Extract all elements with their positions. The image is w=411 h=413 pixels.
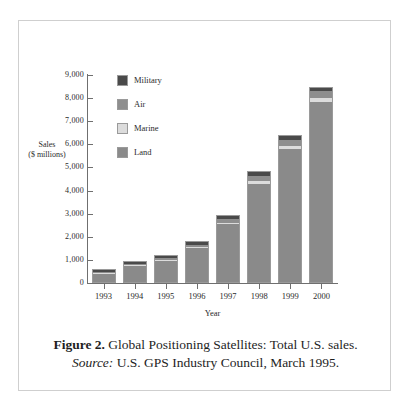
figure-number: Figure 2. xyxy=(53,337,105,352)
bar-segment-land xyxy=(93,274,115,282)
legend-label-land: Land xyxy=(134,148,151,157)
y-axis-tick-label: 7,000 xyxy=(40,117,84,125)
bar-segment-land xyxy=(310,102,332,282)
legend-swatch-military xyxy=(117,75,128,86)
legend-item-air: Air xyxy=(117,92,197,116)
y-axis-tick-label: 0 xyxy=(40,279,84,287)
legend-label-marine: Marine xyxy=(134,124,159,133)
bar-segment-land xyxy=(186,248,208,282)
legend-swatch-marine xyxy=(117,123,128,134)
y-axis-tick-label: 8,000 xyxy=(40,94,84,102)
figure-title-text: Global Positioning Satellites: Total U.S… xyxy=(105,337,358,352)
x-axis-tick xyxy=(104,284,105,289)
bar-1997 xyxy=(216,215,240,283)
y-axis-tick-label: 5,000 xyxy=(40,163,84,171)
x-axis-tick xyxy=(321,284,322,289)
x-axis-tick-label: 2000 xyxy=(301,292,341,301)
y-axis-tick-label: 9,000 xyxy=(40,71,84,79)
source-label: Source: xyxy=(72,355,113,370)
bar-segment-air xyxy=(310,91,332,98)
legend-item-marine: Marine xyxy=(117,116,197,140)
x-axis-tick xyxy=(135,284,136,289)
caption-line-figure: Figure 2. Global Positioning Satellites:… xyxy=(30,336,381,354)
y-axis-tick-label: 1,000 xyxy=(40,256,84,264)
y-axis-tick xyxy=(88,283,93,284)
x-axis-tick xyxy=(166,284,167,289)
y-axis-tick-label: 3,000 xyxy=(40,210,84,218)
x-axis-tick xyxy=(290,284,291,289)
legend-swatch-land xyxy=(117,147,128,158)
legend-label-air: Air xyxy=(134,100,145,109)
y-axis-tick-label: 4,000 xyxy=(40,187,84,195)
bar-1994 xyxy=(123,261,147,283)
x-axis-title: Year xyxy=(88,308,337,318)
caption-line-source: Source: U.S. GPS Industry Council, March… xyxy=(30,354,381,372)
bar-segment-land xyxy=(155,261,177,282)
bar-1993 xyxy=(92,269,116,283)
bar-segment-land xyxy=(124,266,146,282)
bar-1995 xyxy=(154,255,178,283)
bar-segment-land xyxy=(248,184,270,282)
bar-1998 xyxy=(247,171,271,283)
legend-label-military: Military xyxy=(134,76,162,85)
y-axis-title-line1: Sales xyxy=(39,140,56,149)
bar-segment-land xyxy=(217,224,239,282)
legend-item-land: Land xyxy=(117,140,197,164)
x-axis-line xyxy=(87,283,338,284)
y-axis-title-line2: ($ millions) xyxy=(28,150,66,159)
bar-segment-land xyxy=(279,149,301,282)
x-axis-tick xyxy=(259,284,260,289)
legend-swatch-air xyxy=(117,99,128,110)
chart-legend: MilitaryAirMarineLand xyxy=(117,68,197,164)
legend-item-military: Military xyxy=(117,68,197,92)
source-text: U.S. GPS Industry Council, March 1995. xyxy=(113,355,339,370)
y-axis-tick-label: 2,000 xyxy=(40,233,84,241)
bar-1999 xyxy=(278,135,302,283)
x-axis-tick xyxy=(197,284,198,289)
figure-page: 01,0002,0003,0004,0005,0006,0007,0008,00… xyxy=(0,0,411,413)
bar-1996 xyxy=(185,241,209,283)
bar-2000 xyxy=(309,87,333,283)
x-axis-tick xyxy=(228,284,229,289)
y-axis-title: Sales ($ millions) xyxy=(16,140,78,160)
figure-caption: Figure 2. Global Positioning Satellites:… xyxy=(30,336,381,372)
